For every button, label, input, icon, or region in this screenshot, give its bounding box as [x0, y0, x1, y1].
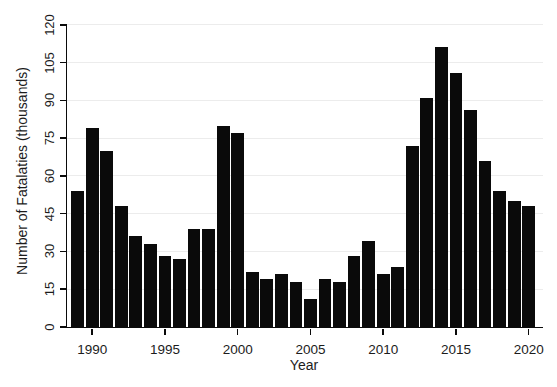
y-tick-75: [60, 137, 66, 139]
x-tick-label-2015: 2015: [432, 342, 480, 357]
bar-2007: [333, 282, 346, 327]
y-tick-120: [60, 24, 66, 26]
y-tick-30: [60, 251, 66, 253]
plot-area: 0153045607590105120199019952000200520102…: [66, 24, 543, 328]
y-tick-label-120: 120: [43, 5, 57, 45]
y-tick-45: [60, 213, 66, 215]
bar-1994: [144, 244, 157, 327]
bar-1998: [202, 229, 215, 327]
y-tick-label-0: 0: [43, 307, 57, 347]
fatalities-bar-chart: 0153045607590105120199019952000200520102…: [0, 0, 557, 387]
x-tick-label-1990: 1990: [68, 342, 116, 357]
y-tick-label-30: 30: [43, 231, 57, 271]
bar-1995: [159, 256, 172, 327]
x-tick-1990: [91, 329, 93, 335]
bar-2016: [464, 110, 477, 327]
y-tick-label-90: 90: [43, 80, 57, 120]
x-tick-2000: [237, 329, 239, 335]
y-tick-label-60: 60: [43, 156, 57, 196]
x-tick-label-1995: 1995: [141, 342, 189, 357]
x-tick-1995: [164, 329, 166, 335]
bar-1992: [115, 206, 128, 327]
bar-1997: [188, 229, 201, 327]
bar-2006: [319, 279, 332, 327]
bar-2003: [275, 274, 288, 327]
bar-2019: [508, 201, 521, 327]
bar-2010: [377, 274, 390, 327]
bar-1999: [217, 126, 230, 327]
y-tick-60: [60, 175, 66, 177]
x-tick-2005: [310, 329, 312, 335]
bar-2001: [246, 272, 259, 327]
y-tick-0: [60, 326, 66, 328]
y-tick-15: [60, 288, 66, 290]
x-tick-2020: [528, 329, 530, 335]
bar-2008: [348, 256, 361, 327]
x-tick-label-2000: 2000: [214, 342, 262, 357]
y-tick-label-75: 75: [43, 118, 57, 158]
bar-2013: [420, 98, 433, 327]
x-tick-label-2010: 2010: [359, 342, 407, 357]
bar-2018: [493, 191, 506, 327]
y-tick-105: [60, 62, 66, 64]
y-tick-label-45: 45: [43, 194, 57, 234]
y-tick-label-15: 15: [43, 269, 57, 309]
bar-2012: [406, 146, 419, 327]
gridline-y-105: [67, 62, 543, 63]
gridline-y-120: [67, 24, 543, 25]
bar-1993: [129, 236, 142, 327]
bar-2009: [362, 241, 375, 327]
gridline-y-90: [67, 100, 543, 101]
bar-2020: [522, 206, 535, 327]
y-tick-label-105: 105: [43, 43, 57, 83]
y-tick-90: [60, 100, 66, 102]
bar-2004: [290, 282, 303, 327]
x-tick-2015: [455, 329, 457, 335]
x-tick-label-2005: 2005: [286, 342, 334, 357]
y-axis-title: Number of Fatalaties (thousands): [13, 21, 31, 321]
x-axis-title: Year: [270, 357, 338, 373]
bar-1996: [173, 259, 186, 327]
bar-1990: [86, 128, 99, 327]
bar-2011: [391, 267, 404, 327]
bar-1991: [100, 151, 113, 327]
x-tick-label-2020: 2020: [505, 342, 553, 357]
bar-2015: [450, 73, 463, 327]
x-tick-2010: [382, 329, 384, 335]
bar-1989: [71, 191, 84, 327]
bar-2005: [304, 299, 317, 327]
bar-2014: [435, 47, 448, 327]
bar-2002: [260, 279, 273, 327]
bar-2017: [479, 161, 492, 327]
bar-2000: [231, 133, 244, 327]
